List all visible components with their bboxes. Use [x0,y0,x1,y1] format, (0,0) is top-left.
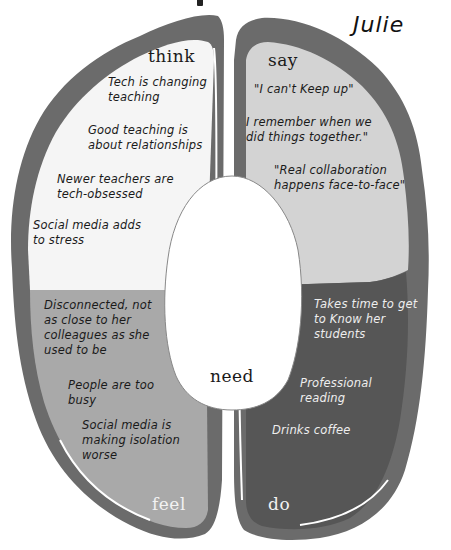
think-note: Tech is changing teaching [108,75,207,105]
feel-note: People are too busy [68,378,154,408]
cropped-title-glyph [197,0,203,6]
do-note: Drinks coffee [272,423,351,438]
do-note: Professional reading [300,376,372,406]
think-label: think [148,46,195,66]
feel-label: feel [152,494,186,514]
do-note: Takes time to get to Know her students [314,297,417,342]
empathy-map-brain [0,0,451,550]
think-note: Good teaching is about relationships [88,123,202,153]
say-note: "Real collaboration happens face-to-face… [274,163,405,193]
do-label: do [268,494,290,514]
feel-note: Disconnected, not as close to her collea… [44,298,152,358]
think-note: Social media adds to stress [33,218,141,248]
say-note: I remember when we did things together." [246,115,372,145]
say-label: say [268,50,298,70]
need-label: need [210,366,254,386]
feel-note: Social media is making isolation worse [82,418,180,463]
think-note: Newer teachers are tech-obsessed [57,172,174,202]
persona-name: Julie [353,12,404,37]
say-note: "I can't Keep up" [254,82,354,97]
